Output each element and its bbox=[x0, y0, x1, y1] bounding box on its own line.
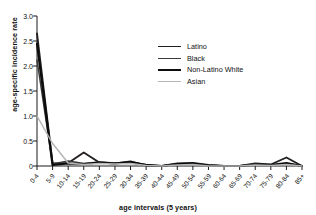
x-tick-label: 45-49 bbox=[165, 172, 181, 189]
legend-item-label: Black bbox=[187, 55, 205, 62]
x-tick-label: 75-79 bbox=[258, 172, 274, 189]
legend-swatch-icon bbox=[158, 58, 181, 59]
x-tick-label: 10-14 bbox=[55, 172, 71, 189]
x-tick-label: 65-69 bbox=[227, 172, 243, 189]
chart-legend: LatinoBlackNon-Latino WhiteAsian bbox=[158, 41, 243, 87]
plot-svg bbox=[37, 16, 302, 166]
x-tick-label: 30-34 bbox=[118, 172, 134, 189]
legend-item-latino[interactable]: Latino bbox=[158, 41, 243, 53]
legend-item-asian[interactable]: Asian bbox=[158, 76, 243, 88]
chart-figure: age-specific incidence rate 00.51.01.52.… bbox=[0, 0, 316, 215]
x-tick-label: 25-29 bbox=[102, 172, 118, 189]
legend-item-label: Latino bbox=[187, 43, 207, 50]
y-tick-label: 0.5 bbox=[23, 138, 33, 145]
legend-item-non-latino-white[interactable]: Non-Latino White bbox=[158, 64, 243, 76]
plot-area: 00.51.01.52.02.53.00-45-910-1415-1920-24… bbox=[37, 16, 302, 166]
chart-title bbox=[0, 0, 316, 1]
legend-item-label: Non-Latino White bbox=[187, 66, 243, 73]
legend-swatch-icon bbox=[158, 81, 181, 82]
x-tick-label: 80-84 bbox=[274, 172, 290, 189]
y-axis-title: age-specific incidence rate bbox=[10, 0, 19, 135]
series-line-asian bbox=[37, 116, 302, 166]
x-tick-label: 35-39 bbox=[133, 172, 149, 189]
y-tick-label: 2.5 bbox=[23, 38, 33, 45]
y-tick-label: 1.5 bbox=[23, 88, 33, 95]
legend-swatch-icon bbox=[158, 69, 181, 71]
y-tick-label: 3.0 bbox=[23, 13, 33, 20]
x-tick-label: 0-4 bbox=[29, 172, 40, 184]
x-tick-label: 50-54 bbox=[180, 172, 196, 189]
y-tick-label: 2.0 bbox=[23, 63, 33, 70]
x-axis-title: age intervals (5 years) bbox=[0, 203, 316, 212]
x-tick-label: 5-9 bbox=[45, 172, 56, 184]
x-tick-label: 15-19 bbox=[71, 172, 87, 189]
legend-item-label: Asian bbox=[187, 78, 205, 85]
y-tick-label: 1.0 bbox=[23, 113, 33, 120]
x-tick-label: 55-59 bbox=[196, 172, 212, 189]
x-tick-label: 20-24 bbox=[87, 172, 103, 189]
x-tick-label: 70-74 bbox=[242, 172, 258, 189]
x-tick-label: 60-64 bbox=[211, 172, 227, 189]
legend-item-black[interactable]: Black bbox=[158, 53, 243, 65]
y-tick-label: 0 bbox=[29, 163, 33, 170]
legend-swatch-icon bbox=[158, 46, 181, 47]
x-tick-label: 85+ bbox=[293, 172, 306, 185]
x-tick-label: 40-44 bbox=[149, 172, 165, 189]
